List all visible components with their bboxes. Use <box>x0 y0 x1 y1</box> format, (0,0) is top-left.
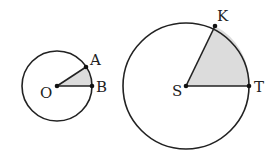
label-s: S <box>172 82 182 100</box>
point-o <box>55 84 60 89</box>
label-o: O <box>40 84 52 102</box>
large-circle-figure: S K T <box>123 7 264 149</box>
point-b <box>90 84 95 89</box>
point-a <box>84 65 89 70</box>
point-t <box>247 84 252 89</box>
large-sector-shaded <box>186 26 249 86</box>
label-k: K <box>217 7 229 25</box>
label-t: T <box>254 78 264 96</box>
small-circle-figure: O A B <box>22 51 107 121</box>
diagram-canvas: O A B S K T <box>0 0 275 161</box>
label-b: B <box>96 78 107 96</box>
label-a: A <box>89 51 101 69</box>
point-s <box>184 84 189 89</box>
